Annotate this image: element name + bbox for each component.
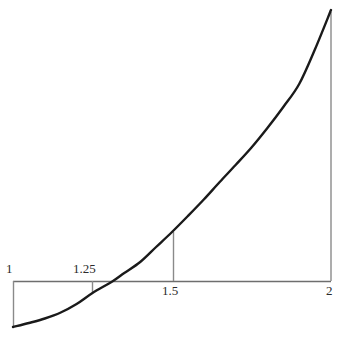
function-curve bbox=[13, 10, 331, 327]
x-tick-label-1.5: 1.5 bbox=[162, 284, 178, 297]
x-tick-label-2: 2 bbox=[326, 284, 333, 297]
figure-container: 1 1.25 1.5 2 bbox=[0, 0, 344, 348]
x-tick-label-1.25: 1.25 bbox=[73, 262, 96, 275]
x-tick-label-1: 1 bbox=[6, 262, 13, 275]
